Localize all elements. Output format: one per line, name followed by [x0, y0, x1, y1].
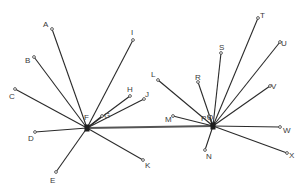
- node-label-t: T: [260, 11, 265, 20]
- network-diagram: ABCDEGHIJKLMNPRSTUVWXFQ: [0, 0, 301, 191]
- spoke-line-e: [56, 128, 87, 172]
- spoke-line-w: [213, 126, 280, 127]
- node-b-endpoint-icon: [33, 56, 36, 59]
- node-label-u: U: [281, 39, 287, 48]
- node-label-h: H: [127, 85, 133, 94]
- spoke-line-c: [15, 89, 87, 128]
- node-m-endpoint-icon: [172, 115, 175, 118]
- spoke-line-x: [213, 126, 287, 153]
- node-label-r: R: [195, 73, 201, 82]
- node-g-endpoint-icon: [101, 115, 104, 118]
- node-s-endpoint-icon: [220, 52, 223, 55]
- node-x-endpoint-icon: [286, 152, 289, 155]
- endpoints: [14, 17, 289, 174]
- spoke-line-a: [52, 29, 87, 128]
- node-label-n: N: [206, 152, 212, 161]
- node-label-c: C: [9, 92, 15, 101]
- hub-bridge: [87, 126, 213, 128]
- node-label-b: B: [25, 56, 30, 65]
- node-label-k: K: [145, 161, 151, 170]
- hub-q-icon: [211, 123, 216, 130]
- spoke-line-j: [87, 99, 144, 128]
- hub-label-f: F: [84, 113, 89, 122]
- node-label-p: P: [201, 114, 206, 123]
- node-label-e: E: [50, 176, 55, 185]
- node-n-endpoint-icon: [204, 149, 207, 152]
- node-w-endpoint-icon: [279, 126, 282, 129]
- node-e-endpoint-icon: [55, 171, 58, 174]
- node-label-j: J: [145, 90, 149, 99]
- spoke-line-u: [213, 42, 280, 126]
- node-label-v: V: [271, 82, 277, 91]
- hub-label-q: Q: [207, 113, 213, 122]
- node-h-endpoint-icon: [129, 95, 132, 98]
- node-c-endpoint-icon: [14, 88, 17, 91]
- node-label-x: X: [289, 151, 295, 160]
- spoke-line-d: [35, 128, 87, 132]
- node-l-endpoint-icon: [157, 79, 160, 82]
- node-i-endpoint-icon: [132, 39, 135, 42]
- node-k-endpoint-icon: [142, 159, 145, 162]
- spoke-line-k: [87, 128, 143, 160]
- node-label-w: W: [283, 126, 291, 135]
- node-label-a: A: [43, 20, 49, 29]
- node-a-endpoint-icon: [51, 28, 54, 31]
- hub-f-icon: [85, 125, 90, 132]
- node-d-endpoint-icon: [34, 131, 37, 134]
- hub-connector-line: [87, 126, 213, 128]
- node-label-g: G: [104, 111, 110, 120]
- node-label-d: D: [28, 134, 34, 143]
- node-label-i: I: [131, 28, 133, 37]
- spokes: [15, 18, 287, 172]
- node-label-l: L: [151, 70, 156, 79]
- node-t-endpoint-icon: [257, 17, 260, 20]
- spoke-line-n: [205, 126, 213, 150]
- node-label-s: S: [219, 43, 224, 52]
- node-label-m: M: [165, 115, 172, 124]
- spoke-line-b: [34, 57, 87, 128]
